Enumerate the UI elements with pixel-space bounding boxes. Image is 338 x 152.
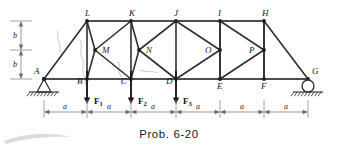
member-OJ bbox=[176, 21, 220, 50]
roller-support-G bbox=[302, 80, 314, 92]
dim-label-a-0: a bbox=[63, 103, 67, 111]
node-label-P: P bbox=[249, 46, 255, 55]
dim-label-a-2: a bbox=[151, 103, 155, 111]
member-NK bbox=[131, 21, 139, 50]
load-label-F3: F3 bbox=[183, 97, 192, 106]
member-MC bbox=[95, 50, 131, 79]
member-ML bbox=[87, 21, 95, 50]
node-label-K: K bbox=[129, 9, 135, 18]
node-label-B: B bbox=[77, 77, 83, 86]
load-arrow-F3 bbox=[173, 71, 179, 104]
load-label-F1: F1 bbox=[94, 97, 103, 106]
dim-label-a-3: a bbox=[196, 103, 200, 111]
member-PI bbox=[220, 21, 264, 50]
node-label-O: O bbox=[205, 46, 212, 55]
pin-support-ground bbox=[27, 92, 59, 96]
dim-label-b-1: b bbox=[13, 61, 17, 69]
node-label-A: A bbox=[34, 67, 40, 76]
node-label-I: I bbox=[218, 9, 221, 18]
joint-L bbox=[85, 19, 89, 23]
dim-label-a-5: a bbox=[284, 103, 288, 111]
member-ND bbox=[139, 50, 176, 79]
member-HG bbox=[264, 21, 308, 79]
node-label-J: J bbox=[174, 9, 178, 18]
dim-label-b-0: b bbox=[13, 32, 17, 40]
member-NJ bbox=[139, 21, 176, 50]
joint-I bbox=[218, 19, 222, 23]
dim-span-b-1 bbox=[19, 50, 23, 79]
node-label-F: F bbox=[261, 82, 267, 91]
node-label-H: H bbox=[262, 9, 269, 18]
joint-J bbox=[174, 19, 178, 23]
joint-N bbox=[137, 48, 141, 52]
joint-M bbox=[93, 48, 97, 52]
member-OD bbox=[176, 50, 220, 79]
roller-support-ground bbox=[291, 92, 323, 96]
node-label-C: C bbox=[121, 77, 127, 86]
load-arrow-F2 bbox=[128, 71, 134, 104]
dim-label-a-1: a bbox=[107, 103, 111, 111]
joint-H bbox=[262, 19, 266, 23]
node-label-N: N bbox=[146, 46, 152, 55]
node-label-D: D bbox=[166, 77, 173, 86]
load-label-F2: F2 bbox=[138, 97, 147, 106]
member-MK bbox=[95, 21, 131, 50]
node-label-E: E bbox=[217, 82, 223, 91]
member-MB bbox=[87, 50, 95, 79]
joint-P bbox=[262, 48, 266, 52]
member-PE bbox=[220, 50, 264, 79]
truss-members bbox=[44, 21, 308, 79]
figure-caption: Prob. 6-20 bbox=[0, 128, 338, 140]
node-label-L: L bbox=[85, 9, 90, 18]
load-arrow-F1 bbox=[84, 71, 90, 104]
joint-O bbox=[218, 48, 222, 52]
node-label-G: G bbox=[312, 67, 319, 76]
dim-label-a-4: a bbox=[240, 103, 244, 111]
dim-span-b-0 bbox=[19, 21, 23, 50]
node-label-M: M bbox=[102, 46, 110, 55]
joint-K bbox=[129, 19, 133, 23]
member-NC bbox=[131, 50, 139, 79]
